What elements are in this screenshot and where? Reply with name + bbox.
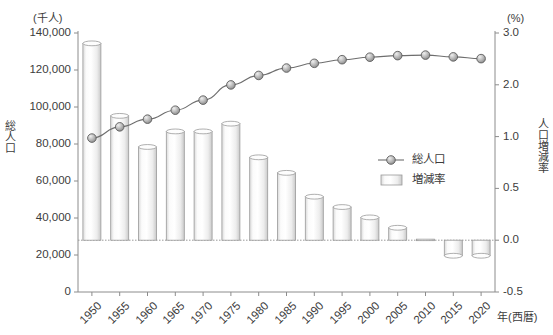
bar: [444, 240, 462, 258]
legend-label-growth-rate: 増減率: [412, 174, 445, 186]
bar-cap: [194, 129, 212, 134]
y-axis-right-tick-label: 3.0: [503, 27, 519, 39]
y-axis-right-tick-label: 0.0: [503, 234, 519, 246]
bar-cap: [305, 194, 323, 199]
legend-marks: [378, 156, 404, 185]
y-axis-right-tick-label: -0.5: [503, 286, 523, 298]
bar: [389, 225, 407, 240]
bar-cap: [472, 253, 490, 258]
line-marker: [143, 115, 152, 124]
right-axis-unit-label: (%): [507, 13, 524, 24]
bar: [250, 155, 268, 240]
bar-cap: [389, 225, 407, 230]
y-axis-left-tick-label: 100,000: [29, 101, 71, 113]
y-axis-left-tick-label: 60,000: [36, 175, 71, 187]
legend-line-marker: [387, 156, 396, 165]
legend-bar-swatch: [381, 175, 402, 185]
line-marker: [171, 106, 180, 115]
line-marker: [282, 64, 291, 73]
bar-cap: [139, 145, 157, 150]
y-axis-left-tick-label: 40,000: [36, 212, 71, 224]
bar-body: [111, 116, 129, 240]
line-marker: [338, 55, 347, 64]
bar-body: [194, 131, 212, 240]
bar: [417, 239, 435, 241]
line-marker: [227, 81, 236, 90]
bar-cap: [83, 41, 101, 46]
line-marker: [310, 59, 319, 68]
line-marker: [421, 51, 430, 60]
bar: [361, 215, 379, 240]
bar-body: [305, 197, 323, 241]
bar-cap: [444, 253, 462, 258]
bar-cap: [333, 205, 351, 210]
bar-body: [417, 239, 435, 241]
bar: [139, 145, 157, 241]
bar: [222, 121, 240, 240]
bar: [166, 129, 184, 240]
y-axis-left-tick-label: 120,000: [29, 64, 71, 76]
bar-body: [333, 207, 351, 240]
y-axis-right-title: 人口増減率: [537, 118, 548, 173]
bar-body: [278, 173, 296, 240]
line-marker: [449, 53, 458, 62]
line-marker: [199, 96, 208, 105]
left-axis-unit-label: (千人): [33, 13, 62, 24]
bar-body: [222, 124, 240, 241]
y-axis-left-tick-label: 20,000: [36, 249, 71, 261]
bar-cap: [222, 121, 240, 126]
bar: [194, 129, 212, 240]
bar-series: [83, 41, 490, 258]
bar: [305, 194, 323, 240]
y-axis-right-tick-label: 0.5: [503, 182, 519, 194]
y-axis-right-tick-label: 1.0: [503, 131, 519, 143]
bar-cap: [361, 215, 379, 220]
line-marker: [254, 71, 263, 80]
line-series-markers: [88, 51, 486, 143]
chart-canvas: [0, 0, 553, 335]
bar-cap: [111, 113, 129, 118]
bar-cap: [166, 129, 184, 134]
y-axis-right-tick-label: 2.0: [503, 79, 519, 91]
line-marker: [88, 134, 97, 143]
bar-cap: [250, 155, 268, 160]
bar: [278, 170, 296, 240]
bar-body: [139, 147, 157, 240]
population-chart: 020,00040,00060,00080,000100,000120,0001…: [0, 0, 553, 335]
bar-body: [250, 157, 268, 240]
bar: [111, 113, 129, 240]
bar-body: [166, 131, 184, 240]
y-axis-left-title: 総人口: [4, 120, 15, 153]
y-axis-left-tick-label: 0: [65, 286, 71, 298]
line-marker: [477, 54, 486, 63]
y-axis-left-tick-label: 140,000: [29, 27, 71, 39]
bar-body: [361, 217, 379, 240]
y-axis-left-tick-label: 80,000: [36, 138, 71, 150]
line-marker: [115, 123, 124, 132]
x-axis-title: 年(西暦): [497, 312, 537, 323]
bar: [333, 205, 351, 241]
legend-label-total-population: 総人口: [412, 154, 445, 166]
line-marker: [366, 53, 375, 62]
bar-cap: [278, 170, 296, 175]
bar: [472, 240, 490, 258]
line-marker: [393, 51, 402, 60]
